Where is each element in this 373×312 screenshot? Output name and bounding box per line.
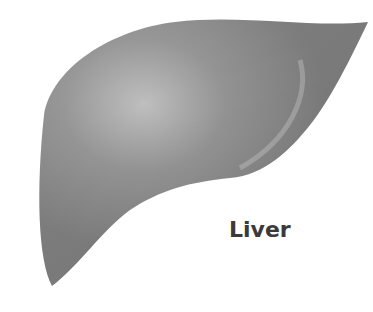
liver-label: Liver	[229, 219, 291, 241]
liver-illustration: Liver	[0, 0, 373, 312]
liver-shape	[0, 0, 373, 312]
